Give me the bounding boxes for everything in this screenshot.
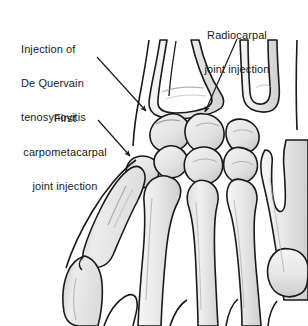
label-first-carpometacarpal-injection: First carpometacarpal joint injection (5, 91, 125, 214)
web-space-contour-3 (226, 299, 238, 326)
label-radiocarpal-line-1: Radiocarpal (177, 30, 297, 41)
radius-inner-line (169, 41, 176, 96)
radial-wrist-contour (133, 40, 149, 146)
capitate-bone (184, 147, 222, 184)
web-space-contour-2 (170, 300, 187, 326)
label-de-quervain-line-2: De Quervain (21, 78, 86, 89)
label-first-cmc-line-3: joint injection (5, 181, 125, 192)
label-de-quervain-line-1: Injection of (21, 44, 86, 55)
fifth-metacarpal-head (268, 249, 308, 297)
thumb-proximal-phalanx-bone (63, 256, 102, 326)
web-space-contour-1 (104, 295, 137, 326)
wrist-injection-diagram: Injection of De Quervain tenosynovitis F… (0, 0, 308, 326)
label-first-cmc-line-2: carpometacarpal (5, 147, 125, 158)
label-first-cmc-line-1: First (5, 113, 125, 124)
third-metacarpal-bone (187, 180, 218, 326)
web-space-contour-4 (268, 301, 277, 326)
label-radiocarpal-joint-injection: Radiocarpal joint injection (177, 8, 297, 98)
label-radiocarpal-line-2: joint injection (177, 64, 297, 75)
second-metacarpal-bone (138, 176, 181, 326)
trapezoid-bone (154, 146, 188, 178)
